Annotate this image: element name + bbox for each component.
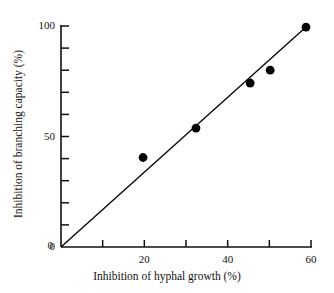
data-points [139,23,311,162]
x-axis-title: Inhibition of hyphal growth (%) [0,270,334,282]
data-point [192,124,201,133]
data-point [266,66,275,75]
scatter-plot-figure: 0204060050100 Inhibition of hyphal growt… [0,0,334,293]
regression-line [61,27,306,247]
data-point [302,23,311,32]
data-point [139,153,148,162]
x-tick-label: 20 [124,253,164,265]
x-tick-label: 40 [208,253,248,265]
data-point [246,79,255,88]
x-axis-ticks [103,240,311,247]
x-tick-label: 60 [291,253,331,265]
y-axis-title: Inhibition of branching capacity (%) [12,24,24,244]
trend-line [61,27,306,247]
y-axis-ticks [61,26,69,225]
